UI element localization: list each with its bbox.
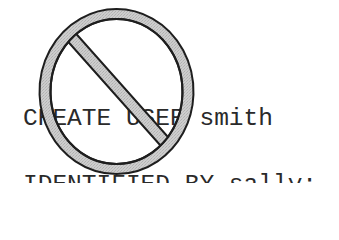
code-line-identified-by: IDENTIFIED BY sally; [23,174,317,183]
sql-code-snippet: CREATE USER smith IDENTIFIED BY sally; [23,64,317,183]
code-line-create-user: CREATE USER smith [23,108,317,130]
